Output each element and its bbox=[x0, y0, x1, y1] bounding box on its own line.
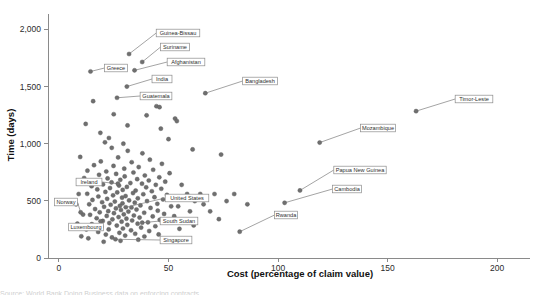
data-point[interactable] bbox=[159, 127, 163, 131]
data-point[interactable] bbox=[140, 182, 144, 186]
data-point[interactable] bbox=[129, 228, 133, 232]
data-point[interactable] bbox=[142, 211, 146, 215]
data-point[interactable] bbox=[87, 202, 91, 206]
data-point[interactable] bbox=[123, 234, 127, 238]
data-point-labeled[interactable] bbox=[116, 182, 120, 186]
data-point-labeled[interactable] bbox=[132, 68, 136, 72]
data-point[interactable] bbox=[84, 122, 88, 126]
data-point[interactable] bbox=[109, 180, 113, 184]
data-point[interactable] bbox=[111, 164, 115, 168]
data-point-labeled[interactable] bbox=[124, 205, 128, 209]
data-point[interactable] bbox=[159, 187, 163, 191]
data-point[interactable] bbox=[115, 223, 119, 227]
data-point[interactable] bbox=[105, 176, 109, 180]
data-point[interactable] bbox=[137, 215, 141, 219]
data-point[interactable] bbox=[124, 217, 128, 221]
data-point[interactable] bbox=[115, 190, 119, 194]
data-point[interactable] bbox=[105, 197, 109, 201]
data-point[interactable] bbox=[152, 195, 156, 199]
data-point[interactable] bbox=[135, 177, 139, 181]
data-point[interactable] bbox=[112, 211, 116, 215]
data-point[interactable] bbox=[156, 209, 160, 213]
data-point[interactable] bbox=[119, 208, 123, 212]
data-point-labeled[interactable] bbox=[318, 140, 322, 144]
data-point[interactable] bbox=[106, 209, 110, 213]
data-point[interactable] bbox=[107, 221, 111, 225]
data-point[interactable] bbox=[150, 189, 154, 193]
data-point[interactable] bbox=[132, 213, 136, 217]
data-point[interactable] bbox=[126, 149, 130, 153]
data-point[interactable] bbox=[105, 214, 109, 218]
data-point[interactable] bbox=[122, 212, 126, 216]
data-point[interactable] bbox=[107, 227, 111, 231]
data-point[interactable] bbox=[125, 185, 129, 189]
data-point[interactable] bbox=[155, 202, 159, 206]
data-point[interactable] bbox=[217, 217, 221, 221]
data-point[interactable] bbox=[85, 192, 89, 196]
data-point[interactable] bbox=[108, 186, 112, 190]
data-point[interactable] bbox=[114, 172, 118, 176]
data-point[interactable] bbox=[125, 123, 129, 127]
data-point[interactable] bbox=[162, 212, 166, 216]
data-point[interactable] bbox=[118, 204, 122, 208]
data-point[interactable] bbox=[153, 224, 157, 228]
data-point-labeled[interactable] bbox=[125, 84, 129, 88]
data-point[interactable] bbox=[78, 155, 82, 159]
data-point[interactable] bbox=[157, 105, 161, 109]
data-point-labeled[interactable] bbox=[88, 69, 92, 73]
data-point[interactable] bbox=[232, 192, 236, 196]
data-point[interactable] bbox=[141, 192, 145, 196]
data-point[interactable] bbox=[118, 178, 122, 182]
data-point[interactable] bbox=[110, 146, 114, 150]
data-point[interactable] bbox=[112, 112, 116, 116]
data-point[interactable] bbox=[134, 207, 138, 211]
data-point[interactable] bbox=[104, 169, 108, 173]
data-point[interactable] bbox=[128, 181, 132, 185]
data-point-labeled[interactable] bbox=[115, 96, 119, 100]
data-point[interactable] bbox=[103, 190, 107, 194]
data-point[interactable] bbox=[99, 159, 103, 163]
data-point[interactable] bbox=[176, 204, 180, 208]
data-point[interactable] bbox=[85, 169, 89, 173]
data-point[interactable] bbox=[117, 231, 121, 235]
data-point-labeled[interactable] bbox=[127, 52, 131, 56]
data-point[interactable] bbox=[219, 152, 223, 156]
data-point[interactable] bbox=[98, 131, 102, 135]
data-point[interactable] bbox=[169, 204, 173, 208]
data-point-labeled[interactable] bbox=[140, 60, 144, 64]
data-point[interactable] bbox=[120, 196, 124, 200]
data-point[interactable] bbox=[131, 191, 135, 195]
data-point-labeled[interactable] bbox=[298, 188, 302, 192]
data-point-labeled[interactable] bbox=[98, 219, 102, 223]
data-point[interactable] bbox=[121, 226, 125, 230]
data-point-labeled[interactable] bbox=[79, 210, 83, 214]
data-point[interactable] bbox=[136, 196, 140, 200]
data-point-labeled[interactable] bbox=[414, 109, 418, 113]
data-point[interactable] bbox=[107, 136, 111, 140]
data-point[interactable] bbox=[93, 207, 97, 211]
data-point[interactable] bbox=[100, 200, 104, 204]
data-point[interactable] bbox=[139, 226, 143, 230]
data-point[interactable] bbox=[122, 167, 126, 171]
data-point[interactable] bbox=[102, 205, 106, 209]
data-point[interactable] bbox=[121, 142, 125, 146]
data-point-labeled[interactable] bbox=[113, 237, 117, 241]
data-point[interactable] bbox=[103, 140, 107, 144]
data-point[interactable] bbox=[88, 213, 92, 217]
data-point[interactable] bbox=[140, 151, 144, 155]
data-point-labeled[interactable] bbox=[140, 221, 144, 225]
data-point[interactable] bbox=[151, 214, 155, 218]
data-point[interactable] bbox=[133, 201, 137, 205]
data-point[interactable] bbox=[110, 217, 114, 221]
data-point[interactable] bbox=[180, 183, 184, 187]
data-point[interactable] bbox=[116, 155, 120, 159]
data-point[interactable] bbox=[79, 234, 83, 238]
data-point[interactable] bbox=[125, 223, 129, 227]
data-point[interactable] bbox=[166, 137, 170, 141]
data-point[interactable] bbox=[144, 113, 148, 117]
data-point[interactable] bbox=[95, 216, 99, 220]
data-point[interactable] bbox=[96, 194, 100, 198]
data-point[interactable] bbox=[97, 173, 101, 177]
data-point-labeled[interactable] bbox=[203, 91, 207, 95]
data-point[interactable] bbox=[130, 218, 134, 222]
